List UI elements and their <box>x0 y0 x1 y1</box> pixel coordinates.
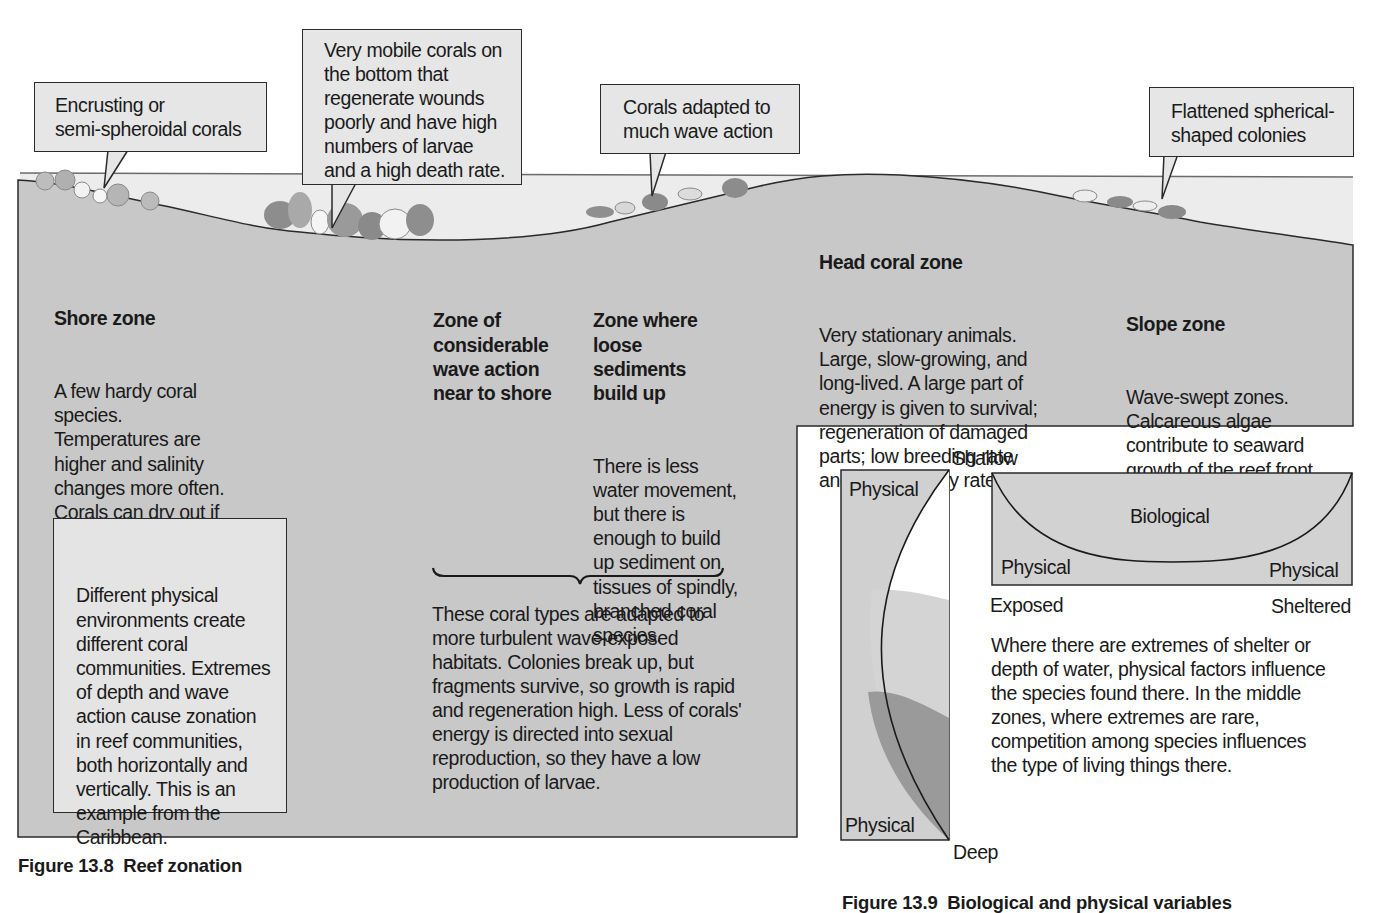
figure-13-9-caption: Figure 13.9 Biological and physical vari… <box>842 892 1232 913</box>
bio-physical-explanation: Where there are extremes of shelter or d… <box>991 633 1325 777</box>
depth-lower-physical-label: Physical <box>845 814 914 837</box>
shelter-right-physical-label: Physical <box>1269 559 1338 582</box>
shelter-left-physical-label: Physical <box>1001 556 1070 579</box>
depth-upper-physical-label: Physical <box>849 478 918 501</box>
shelter-sheltered-label: Sheltered <box>1271 595 1351 618</box>
depth-bottom-label: Deep <box>953 841 998 864</box>
depth-top-label: Shallow <box>952 447 1018 470</box>
depth-diagram <box>841 470 949 840</box>
shelter-exposed-label: Exposed <box>990 594 1063 617</box>
shelter-biological-label: Biological <box>1130 505 1209 528</box>
